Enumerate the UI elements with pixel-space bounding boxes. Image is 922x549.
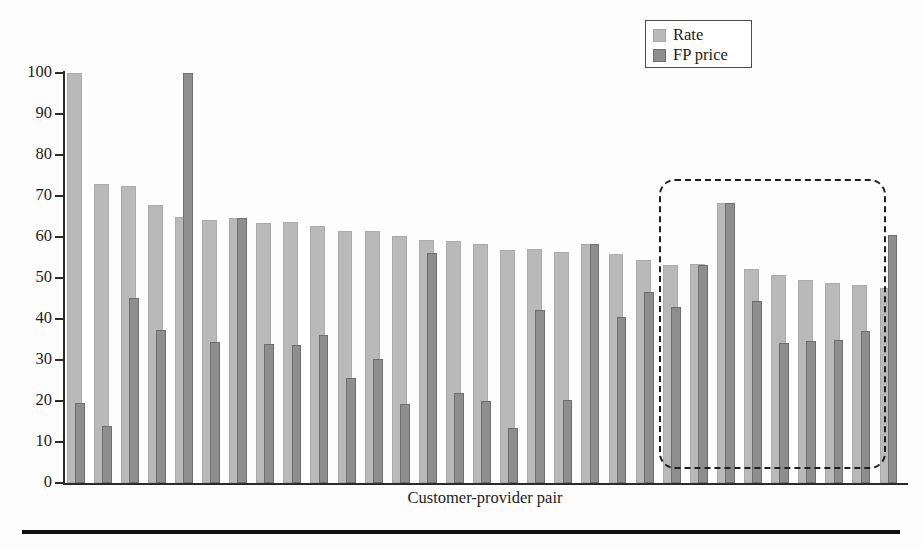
y-tick-label: 0 (12, 474, 52, 491)
bar-group[interactable] (228, 73, 255, 483)
y-tick-mark (55, 400, 63, 402)
bar-group[interactable] (146, 73, 173, 483)
bar-group[interactable] (715, 73, 742, 483)
bar-fp-price[interactable] (834, 340, 844, 483)
bar-fp-price[interactable] (725, 203, 735, 483)
bar-group[interactable] (471, 73, 498, 483)
bar-fp-price[interactable] (129, 298, 139, 483)
x-axis-spine (63, 483, 908, 485)
bar-fp-price[interactable] (644, 292, 654, 483)
bar-group[interactable] (173, 73, 200, 483)
y-tick-mark (55, 359, 63, 361)
y-tick-label: 100 (12, 64, 52, 81)
bar-group[interactable] (742, 73, 769, 483)
y-tick-mark (55, 195, 63, 197)
bar-fp-price[interactable] (75, 403, 85, 483)
bar-group[interactable] (499, 73, 526, 483)
bar-group[interactable] (526, 73, 553, 483)
bar-group[interactable] (92, 73, 119, 483)
bar-fp-price[interactable] (237, 218, 247, 483)
bar-group[interactable] (282, 73, 309, 483)
bar-fp-price[interactable] (563, 400, 573, 483)
bar-fp-price[interactable] (888, 235, 898, 483)
bar-group[interactable] (770, 73, 797, 483)
bar-group[interactable] (65, 73, 92, 483)
bar-group[interactable] (444, 73, 471, 483)
bar-fp-price[interactable] (481, 401, 491, 483)
y-tick-mark (55, 154, 63, 156)
bar-group[interactable] (878, 73, 905, 483)
bar-group[interactable] (309, 73, 336, 483)
bar-group[interactable] (797, 73, 824, 483)
bar-fp-price[interactable] (779, 343, 789, 483)
bottom-rule (22, 530, 900, 534)
bar-group[interactable] (553, 73, 580, 483)
y-tick-label: 60 (12, 228, 52, 245)
legend-label-rate: Rate (673, 27, 703, 44)
plot-area (65, 73, 905, 483)
bar-fp-price[interactable] (752, 301, 762, 483)
y-tick-label: 20 (12, 392, 52, 409)
y-tick-label: 30 (12, 351, 52, 368)
bar-fp-price[interactable] (319, 335, 329, 483)
legend-entry-rate: Rate (653, 25, 745, 45)
y-tick-label: 70 (12, 187, 52, 204)
bar-group[interactable] (200, 73, 227, 483)
chart-legend: Rate FP price (645, 20, 752, 68)
bar-fp-price[interactable] (373, 359, 383, 483)
bar-fp-price[interactable] (535, 310, 545, 483)
bar-group[interactable] (417, 73, 444, 483)
bar-fp-price[interactable] (292, 345, 302, 483)
y-axis-tick-labels: 0102030405060708090100 (0, 0, 52, 549)
bar-fp-price[interactable] (210, 342, 220, 483)
bar-group[interactable] (119, 73, 146, 483)
x-axis-label: Customer-provider pair (65, 488, 905, 508)
y-tick-mark (55, 113, 63, 115)
bar-fp-price[interactable] (508, 428, 518, 483)
bar-group[interactable] (661, 73, 688, 483)
bar-fp-price[interactable] (102, 426, 112, 483)
bar-group[interactable] (851, 73, 878, 483)
y-tick-mark (55, 482, 63, 484)
bar-fp-price[interactable] (346, 378, 356, 483)
bar-group[interactable] (634, 73, 661, 483)
bar-fp-price[interactable] (454, 393, 464, 483)
bar-group[interactable] (607, 73, 634, 483)
y-tick-mark (55, 72, 63, 74)
bar-group[interactable] (255, 73, 282, 483)
bar-fp-price[interactable] (400, 404, 410, 483)
bar-fp-price[interactable] (427, 253, 437, 483)
bar-group[interactable] (363, 73, 390, 483)
y-tick-mark (55, 318, 63, 320)
y-tick-mark (55, 441, 63, 443)
bar-fp-price[interactable] (617, 317, 627, 483)
bar-fp-price[interactable] (671, 307, 681, 483)
y-tick-mark (55, 277, 63, 279)
bar-group[interactable] (688, 73, 715, 483)
y-tick-label: 40 (12, 310, 52, 327)
y-tick-label: 90 (12, 105, 52, 122)
y-tick-label: 50 (12, 269, 52, 286)
bar-fp-price[interactable] (806, 341, 816, 483)
bar-group[interactable] (336, 73, 363, 483)
y-tick-mark (55, 236, 63, 238)
y-tick-label: 80 (12, 146, 52, 163)
bar-fp-price[interactable] (590, 244, 600, 483)
bar-fp-price[interactable] (861, 331, 871, 483)
legend-label-fp-price: FP price (673, 47, 728, 64)
bar-fp-price[interactable] (698, 265, 708, 483)
y-tick-label: 10 (12, 433, 52, 450)
bar-group[interactable] (580, 73, 607, 483)
square-swatch-icon (653, 29, 666, 42)
y-axis-spine (63, 71, 65, 485)
legend-entry-fp-price: FP price (653, 45, 745, 65)
bar-group[interactable] (824, 73, 851, 483)
square-swatch-icon (653, 49, 666, 62)
bar-fp-price[interactable] (183, 73, 193, 483)
chart-figure: Rate FP price 0102030405060708090100 Cus… (0, 0, 922, 549)
bar-fp-price[interactable] (264, 344, 274, 483)
bar-group[interactable] (390, 73, 417, 483)
bar-fp-price[interactable] (156, 330, 166, 483)
